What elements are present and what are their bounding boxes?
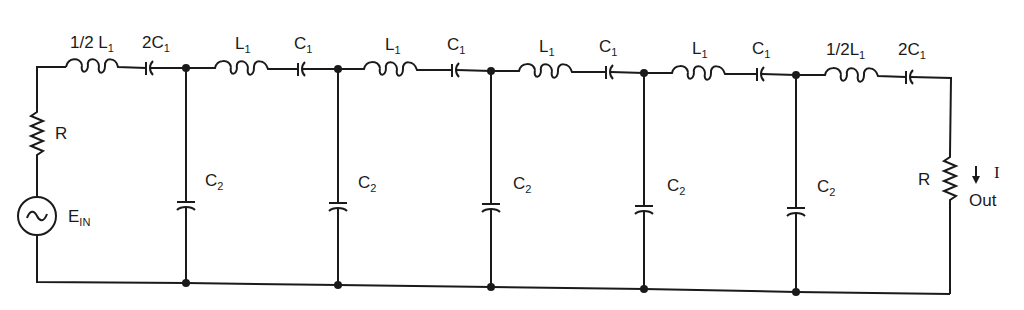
load-resistor-symbol bbox=[944, 154, 956, 294]
ground-node-2 bbox=[334, 281, 342, 289]
series-branch-4 bbox=[491, 64, 644, 79]
shunt-branch-3 bbox=[482, 71, 500, 287]
load-resistor-label: R bbox=[918, 171, 930, 188]
shunt-capacitor-label-4: C2 bbox=[667, 177, 685, 197]
ground-node-1 bbox=[182, 279, 190, 287]
capacitor-label-6: 2C1 bbox=[898, 41, 926, 61]
source-side-wiring bbox=[18, 67, 186, 283]
source-resistor-symbol bbox=[31, 108, 43, 197]
inductor-label-3: L1 bbox=[385, 36, 401, 56]
capacitor-label-2: C1 bbox=[294, 35, 312, 55]
inductor-label-6: 1/2L1 bbox=[826, 41, 865, 61]
series-branch-2 bbox=[186, 61, 338, 76]
inductor-label-5: L1 bbox=[692, 40, 708, 60]
shunt-branch-2 bbox=[329, 69, 347, 285]
output-label: Out bbox=[969, 192, 996, 209]
inductor-label-2: L1 bbox=[235, 35, 251, 55]
down-arrow-icon bbox=[972, 176, 980, 184]
shunt-capacitor-label-3: C2 bbox=[513, 175, 531, 195]
capacitor-label-3: C1 bbox=[447, 36, 465, 56]
shunt-branch-1 bbox=[177, 68, 195, 283]
shunt-capacitor-label-5: C2 bbox=[817, 178, 835, 198]
inductor-label-4: L1 bbox=[539, 38, 555, 58]
ground-node-3 bbox=[487, 283, 495, 291]
series-branch-6 bbox=[796, 68, 951, 154]
source-resistor-label: R bbox=[55, 125, 67, 142]
inductor-label-1: 1/2 L1 bbox=[70, 34, 114, 54]
capacitor-label-4: C1 bbox=[599, 38, 617, 58]
source-label: EIN bbox=[68, 208, 90, 228]
capacitor-label-1: 2C1 bbox=[142, 34, 170, 54]
output-current-label: I bbox=[994, 164, 1000, 181]
series-branch-1 bbox=[66, 59, 186, 75]
ground-node-4 bbox=[640, 285, 648, 293]
sine-wave-icon bbox=[27, 212, 47, 221]
load-side-wiring bbox=[796, 154, 980, 294]
series-branch-5 bbox=[644, 66, 796, 81]
ground-node-5 bbox=[792, 288, 800, 296]
series-branch-3 bbox=[338, 62, 491, 77]
shunt-branch-5 bbox=[787, 75, 805, 292]
shunt-capacitor-label-1: C2 bbox=[205, 172, 223, 192]
capacitor-label-5: C1 bbox=[752, 40, 770, 60]
shunt-branch-4 bbox=[635, 73, 653, 289]
shunt-capacitor-label-2: C2 bbox=[358, 174, 376, 194]
